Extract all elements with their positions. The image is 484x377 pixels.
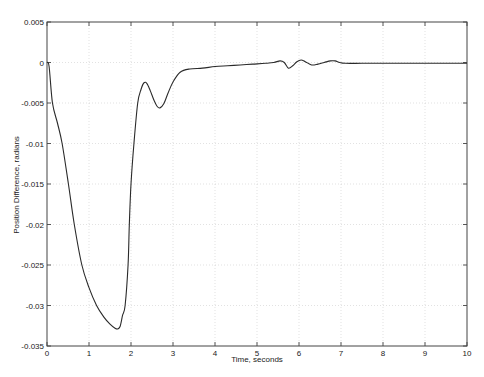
x-tick-label: 6 <box>297 349 302 358</box>
chart: 012345678910 0.0050-0.005-0.01-0.015-0.0… <box>0 0 484 377</box>
y-tick-label: -0.02 <box>26 221 45 230</box>
x-tick-label: 0 <box>45 349 50 358</box>
y-tick-label: 0.005 <box>24 18 45 27</box>
y-tick-label: 0 <box>40 59 45 68</box>
y-tick-label: -0.035 <box>21 342 44 351</box>
y-axis-label: Position Difference, radians <box>12 136 21 234</box>
x-tick-label: 7 <box>339 349 344 358</box>
x-tick-label: 3 <box>171 349 176 358</box>
grid <box>47 22 467 346</box>
y-tick-label: -0.025 <box>21 261 44 270</box>
y-tick-label: -0.005 <box>21 99 44 108</box>
x-tick-label: 2 <box>129 349 134 358</box>
x-tick-label: 9 <box>423 349 428 358</box>
x-tick-label: 1 <box>87 349 92 358</box>
y-tick-label: -0.03 <box>26 302 45 311</box>
x-tick-label: 8 <box>381 349 386 358</box>
x-tick-label: 4 <box>213 349 218 358</box>
x-axis-label: Time, seconds <box>231 355 283 364</box>
y-tick-label: -0.01 <box>26 140 45 149</box>
y-axis-tick-labels: 0.0050-0.005-0.01-0.015-0.02-0.025-0.03-… <box>21 18 44 351</box>
x-tick-label: 10 <box>463 349 472 358</box>
y-tick-label: -0.015 <box>21 180 44 189</box>
